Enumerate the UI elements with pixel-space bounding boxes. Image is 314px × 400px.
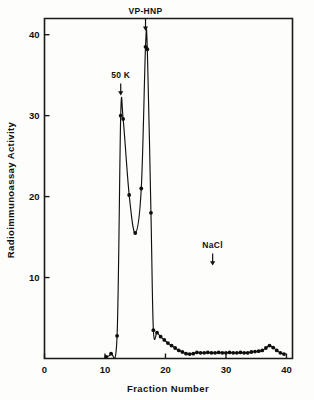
series-marker [151,328,155,332]
y-axis-title: Radioimmunoassay Activity [5,122,16,259]
series-marker [155,331,159,335]
series-marker [184,352,188,356]
series-marker [191,352,195,356]
series-marker [115,334,119,338]
series-marker [206,351,210,355]
series-marker [162,338,166,342]
series-marker [264,346,268,350]
plot-frame [45,19,293,359]
series-marker [253,350,257,354]
y-tick-label: 20 [29,191,40,202]
annotation-arrow-head [143,26,148,30]
series-marker [173,346,177,350]
series-marker [159,335,163,339]
series-marker [279,351,283,355]
series-marker [228,351,232,355]
series-marker [275,349,279,353]
annotation-label-nacl: NaCl [202,240,223,250]
series-marker [166,341,170,345]
frame-border [45,19,293,359]
series-marker [242,351,246,355]
x-tick-label: 10 [100,364,111,375]
data-series [104,29,286,359]
chart-annotations: 50 KVP-HNPNaCl [111,6,223,266]
annotation-label-vp-hnp: VP-HNP [129,6,163,16]
annotation-arrow-head [118,91,123,95]
series-marker [195,351,199,355]
y-tick-label: 10 [29,272,40,283]
series-marker [170,344,174,348]
series-marker [177,349,181,353]
figure-container: 01020304010203040 50 KVP-HNPNaCl Fractio… [0,0,314,400]
series-marker [224,351,228,355]
series-marker [210,351,214,355]
series-marker [268,344,272,348]
y-tick-label: 30 [29,110,40,121]
series-marker [145,47,149,51]
chart-canvas: 01020304010203040 50 KVP-HNPNaCl Fractio… [0,0,314,400]
series-marker [282,352,286,356]
series-marker [235,351,239,355]
series-marker [109,352,113,356]
series-marker [149,211,153,215]
series-marker [188,352,192,356]
series-line [106,29,284,358]
series-marker [246,351,250,355]
annotation-arrow-head [210,261,215,265]
axis-ticks [45,35,287,359]
series-marker [257,349,261,353]
series-marker [249,350,253,354]
annotation-label-50-k: 50 K [111,70,131,80]
series-marker [119,114,123,118]
series-marker [127,193,131,197]
series-marker [139,187,143,191]
series-marker [104,355,108,359]
x-axis-title: Fraction Number [127,383,209,394]
series-marker [217,351,221,355]
series-marker [239,351,243,355]
x-tick-label: 40 [281,364,292,375]
x-tick-label: 30 [221,364,232,375]
series-marker [202,351,206,355]
series-marker [121,117,125,121]
series-marker [220,351,224,355]
series-marker [133,231,137,235]
series-marker [260,349,264,353]
series-marker [231,351,235,355]
series-marker [199,351,203,355]
y-tick-label: 40 [29,29,40,40]
axis-tick-labels: 01020304010203040 [29,29,292,374]
series-marker [213,351,217,355]
series-marker [181,350,185,354]
x-tick-label: 0 [42,364,47,375]
x-tick-label: 20 [160,364,171,375]
series-marker [271,346,275,350]
